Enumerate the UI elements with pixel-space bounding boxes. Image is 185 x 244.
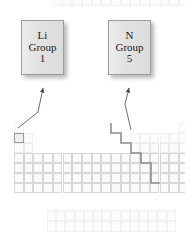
periodic-table-cell <box>150 173 160 183</box>
periodic-table-cell <box>179 183 185 193</box>
periodic-table-cell <box>111 173 121 183</box>
callout-n-symbol: N <box>126 30 134 42</box>
actinide-cell <box>167 221 176 232</box>
periodic-table-cell <box>43 173 53 183</box>
periodic-table-cell-clipped <box>140 0 150 6</box>
periodic-table-cell <box>33 183 43 193</box>
periodic-table-cell <box>24 173 34 183</box>
periodic-table-cell <box>82 173 92 183</box>
periodic-table-cell <box>63 153 73 163</box>
periodic-table-cell <box>14 123 24 133</box>
periodic-table-cell <box>121 163 131 173</box>
actinide-cell <box>148 221 157 232</box>
lanthanide-cell <box>148 210 157 221</box>
periodic-table-cell <box>140 133 150 143</box>
periodic-table-cell <box>179 133 185 143</box>
periodic-table-cell <box>24 133 34 143</box>
actinide-cell <box>75 221 84 232</box>
periodic-table-cell <box>63 173 73 183</box>
periodic-table-cell <box>140 143 150 153</box>
lanthanide-cell <box>75 210 84 221</box>
periodic-table-cell <box>111 163 121 173</box>
periodic-table-cell <box>72 153 82 163</box>
actinide-cell <box>111 221 120 232</box>
periodic-table-cell-clipped <box>101 0 111 6</box>
periodic-table-cell-clipped <box>160 0 170 6</box>
periodic-table-cell <box>53 183 63 193</box>
periodic-table-cell <box>160 133 170 143</box>
periodic-table-cell-clipped <box>169 0 179 6</box>
periodic-table-cell-clipped <box>121 0 131 6</box>
periodic-table-cell <box>179 123 185 133</box>
periodic-table-cell <box>92 153 102 163</box>
periodic-table-cell <box>121 173 131 183</box>
lanthanide-cell <box>93 210 102 221</box>
periodic-table-cell <box>43 183 53 193</box>
periodic-table-cell-clipped <box>53 0 63 6</box>
lanthanide-cell <box>47 210 56 221</box>
periodic-table-cell-clipped <box>82 0 92 6</box>
periodic-table-cell <box>160 163 170 173</box>
periodic-table-cell <box>140 173 150 183</box>
periodic-table-cell <box>130 183 140 193</box>
lanthanide-cell <box>157 210 166 221</box>
periodic-table-cell <box>111 183 121 193</box>
periodic-table-cell <box>14 143 24 153</box>
periodic-table-cell <box>150 153 160 163</box>
periodic-table-cell <box>160 143 170 153</box>
actinide-cell <box>157 221 166 232</box>
periodic-table-cell-clipped <box>72 0 82 6</box>
periodic-table-cell <box>72 173 82 183</box>
periodic-table-cell <box>43 153 53 163</box>
periodic-table-cell <box>82 153 92 163</box>
periodic-table-cell <box>101 163 111 173</box>
periodic-table-cell <box>160 153 170 163</box>
periodic-table-cell <box>169 183 179 193</box>
periodic-table-cell <box>160 173 170 183</box>
lanthanide-cell <box>65 210 74 221</box>
callout-box-li: Li Group 1 <box>21 20 64 75</box>
actinide-cell <box>47 221 56 232</box>
periodic-table-cell <box>179 163 185 173</box>
periodic-table-cell <box>92 183 102 193</box>
lanthanide-cell <box>130 210 139 221</box>
callout-li-group-number: 1 <box>40 53 46 65</box>
periodic-table-cell <box>92 173 102 183</box>
actinide-cell <box>93 221 102 232</box>
periodic-table-cell <box>140 163 150 173</box>
periodic-table-cell <box>14 183 24 193</box>
periodic-table-cell <box>101 153 111 163</box>
periodic-table-cell <box>130 163 140 173</box>
periodic-table-cell <box>140 183 150 193</box>
periodic-table-cell <box>101 173 111 183</box>
periodic-table-cell <box>63 163 73 173</box>
lanthanide-cell <box>56 210 65 221</box>
periodic-table-cell <box>160 183 170 193</box>
periodic-table-cell <box>24 183 34 193</box>
periodic-table-cell <box>72 163 82 173</box>
periodic-table-cell-clipped <box>179 0 185 6</box>
callout-box-n: N Group 5 <box>108 20 151 75</box>
lanthanide-cell <box>84 210 93 221</box>
periodic-table-cell <box>24 153 34 163</box>
actinide-cell <box>121 221 130 232</box>
lanthanide-cell <box>139 210 148 221</box>
periodic-table-cell <box>14 163 24 173</box>
periodic-table-cell <box>63 183 73 193</box>
periodic-table-cell <box>53 173 63 183</box>
periodic-table-cell <box>92 163 102 173</box>
periodic-table-cell <box>82 183 92 193</box>
periodic-table-cell <box>14 173 24 183</box>
periodic-table-cell <box>101 183 111 193</box>
periodic-table-cell <box>130 133 140 143</box>
periodic-table-cell <box>14 153 24 163</box>
li-cell <box>14 133 24 143</box>
lanthanide-cell <box>102 210 111 221</box>
periodic-table-cell <box>169 143 179 153</box>
periodic-table-cell <box>169 163 179 173</box>
lanthanide-cell <box>121 210 130 221</box>
periodic-table-cell-clipped <box>63 0 73 6</box>
actinide-cell <box>65 221 74 232</box>
periodic-table-cell <box>82 163 92 173</box>
callout-n-group-number: 5 <box>127 53 133 65</box>
